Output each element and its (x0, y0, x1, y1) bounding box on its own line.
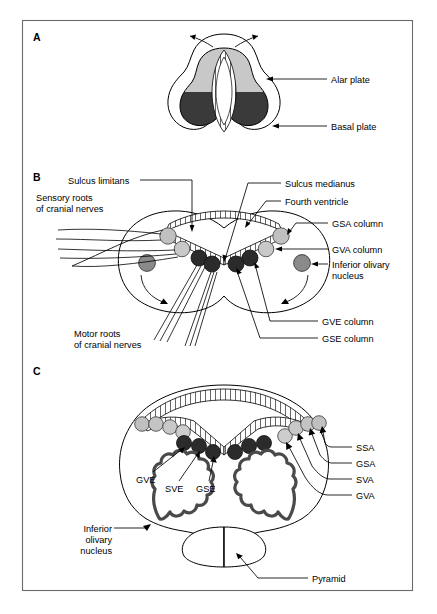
c-inferior-olivary-label-line3: nucleus (80, 546, 112, 556)
motor-roots-label-line1: Motor roots (74, 329, 121, 339)
sensory-roots-label-line1: Sensory roots (36, 193, 93, 203)
c-gsa-label: GSA (356, 459, 376, 469)
panel-c-letter: C (33, 365, 41, 377)
c-inferior-olivary-callout: Inferior olivary nucleus (80, 524, 151, 556)
b-gsa-right-nucleus (273, 228, 289, 244)
panel-b: B (33, 171, 390, 350)
b-inferior-olivary-right (294, 255, 311, 272)
motor-roots-label-line2: of cranial nerves (74, 340, 142, 350)
b-inferior-olivary-left (139, 255, 156, 272)
c-gsa-left-nucleus (149, 417, 164, 432)
basal-plate-label: Basal plate (331, 122, 376, 132)
b-gse-column-label: GSE column (322, 334, 374, 344)
panel-a: A Alar plate (33, 31, 376, 144)
c-gva-label: GVA (356, 491, 376, 501)
c-gse-left-nucleus (206, 445, 221, 460)
c-sve-label: SVE (165, 484, 183, 494)
basal-plate-callout: Basal plate (272, 122, 376, 132)
panel-a-letter: A (33, 31, 41, 43)
c-ssa-label: SSA (356, 443, 375, 453)
b-gsa-column-label: GSA column (332, 219, 383, 229)
b-gva-column-label: GVA column (332, 245, 382, 255)
sulcus-medianus-label: Sulcus medianus (285, 179, 355, 189)
b-gva-left-nucleus (174, 241, 190, 257)
figure-root: A Alar plate (0, 0, 437, 614)
b-inferior-olivary-label-line1: Inferior olivary (332, 260, 390, 270)
alar-plate-label: Alar plate (331, 75, 370, 85)
c-inferior-olivary-label-line2: olivary (85, 535, 112, 545)
panel-c: C (33, 365, 376, 584)
c-ssa-right-nucleus (312, 416, 327, 431)
pyramid-right (224, 527, 266, 567)
c-gve-label: GVE (136, 475, 155, 485)
b-gse-left-nucleus (204, 256, 220, 272)
panel-c-medulla-outline (120, 385, 329, 551)
b-gva-right-nucleus (258, 241, 274, 257)
c-gse-label: GSE (196, 484, 215, 494)
c-sva-label: SVA (356, 475, 375, 485)
c-gse-right-nucleus (228, 445, 243, 460)
c-pyramid-label: Pyramid (312, 574, 346, 584)
pyramid-left (182, 527, 224, 567)
b-inferior-olivary-label-line2: nucleus (332, 271, 364, 281)
c-inferior-olivary-label-line1: Inferior (83, 524, 112, 534)
sensory-roots-label-line2: of cranial nerves (36, 204, 104, 214)
c-ssa-callout: SSA (320, 426, 376, 453)
b-gse-right-nucleus (228, 256, 244, 272)
c-gve-right-nucleus (257, 436, 272, 451)
c-ssa-left-nucleus (135, 417, 150, 432)
alar-plate-callout: Alar plate (266, 75, 370, 85)
b-gve-column-label: GVE column (322, 317, 374, 327)
panel-b-letter: B (33, 171, 41, 183)
fourth-ventricle-label: Fourth ventricle (285, 197, 348, 207)
c-sva-left-nucleus (163, 420, 178, 435)
sulcus-limitans-label: Sulcus limitans (68, 176, 130, 186)
anatomy-figure: A Alar plate (0, 0, 437, 614)
